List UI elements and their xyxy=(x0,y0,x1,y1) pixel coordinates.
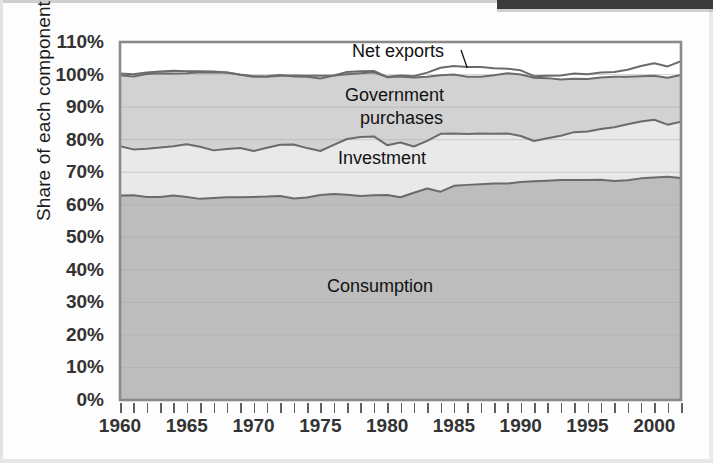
x-tick-mark xyxy=(521,403,523,413)
series-label-net-exports: Net exports xyxy=(352,41,444,62)
x-tick-mark xyxy=(387,403,389,413)
x-tick-mark xyxy=(334,403,336,413)
x-tick-mark xyxy=(200,403,202,413)
x-tick-mark xyxy=(561,403,563,413)
x-tick-mark xyxy=(160,403,162,413)
x-tick-mark xyxy=(120,403,122,413)
x-tick-mark xyxy=(614,403,616,413)
x-tick-mark xyxy=(628,403,630,413)
x-tick-mark xyxy=(414,403,416,413)
x-tick-mark xyxy=(254,403,256,413)
x-tick-mark xyxy=(347,403,349,413)
x-tick-mark xyxy=(280,403,282,413)
x-tick-label: 1975 xyxy=(299,415,341,437)
figure-root: Share of each component 0%10%20%30%40%50… xyxy=(0,0,713,463)
x-tick-label: 1995 xyxy=(566,415,608,437)
x-tick-mark xyxy=(214,403,216,413)
x-tick-label: 1960 xyxy=(99,415,141,437)
x-tick-mark xyxy=(173,403,175,413)
x-tick-mark xyxy=(427,403,429,413)
x-tick-mark xyxy=(307,403,309,413)
x-tick-mark xyxy=(240,403,242,413)
x-tick-mark xyxy=(494,403,496,413)
x-tick-mark xyxy=(360,403,362,413)
x-tick-mark xyxy=(481,403,483,413)
plot-area xyxy=(0,0,713,463)
x-tick-mark xyxy=(187,403,189,413)
x-tick-mark xyxy=(681,403,683,413)
x-tick-mark xyxy=(574,403,576,413)
stacked-area-chart: Share of each component 0%10%20%30%40%50… xyxy=(0,0,713,463)
x-tick-mark xyxy=(320,403,322,413)
x-tick-label: 1990 xyxy=(500,415,542,437)
x-tick-mark xyxy=(267,403,269,413)
series-label-government-line2: purchases xyxy=(360,108,443,129)
x-tick-mark xyxy=(454,403,456,413)
x-tick-mark xyxy=(534,403,536,413)
x-tick-mark xyxy=(133,403,135,413)
x-tick-label: 1965 xyxy=(166,415,208,437)
x-tick-mark xyxy=(227,403,229,413)
series-label-government-line1: Government xyxy=(345,85,444,106)
x-tick-mark xyxy=(374,403,376,413)
x-tick-label: 1970 xyxy=(232,415,274,437)
x-tick-mark xyxy=(547,403,549,413)
x-tick-mark xyxy=(401,403,403,413)
x-tick-mark xyxy=(641,403,643,413)
x-tick-label: 1985 xyxy=(433,415,475,437)
x-tick-mark xyxy=(507,403,509,413)
x-tick-label: 2000 xyxy=(633,415,675,437)
x-tick-mark xyxy=(147,403,149,413)
x-tick-mark xyxy=(601,403,603,413)
x-tick-mark xyxy=(654,403,656,413)
x-tick-mark xyxy=(441,403,443,413)
x-tick-mark xyxy=(294,403,296,413)
series-label-consumption: Consumption xyxy=(327,276,433,297)
x-tick-mark xyxy=(668,403,670,413)
x-tick-mark xyxy=(588,403,590,413)
x-tick-mark xyxy=(467,403,469,413)
series-label-investment: Investment xyxy=(338,148,426,169)
x-tick-label: 1980 xyxy=(366,415,408,437)
